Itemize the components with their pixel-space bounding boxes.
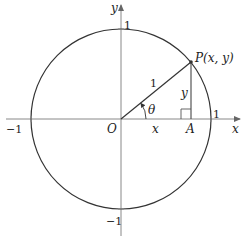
x-axis-label: x — [232, 122, 239, 136]
adjacent-label: x — [152, 122, 159, 136]
point-p-dot — [189, 60, 193, 64]
angle-label: θ — [148, 103, 156, 117]
radius-label: 1 — [150, 77, 157, 90]
top-tick-label: 1 — [124, 19, 131, 32]
bottom-tick-label: −1 — [106, 215, 122, 228]
opposite-label: y — [180, 86, 188, 100]
right-tick-label: 1 — [213, 108, 220, 121]
origin-label: O — [107, 122, 117, 136]
left-tick-label: −1 — [6, 123, 22, 136]
angle-arc — [141, 104, 146, 120]
y-axis-label: y — [110, 1, 118, 15]
foot-a-label: A — [185, 122, 195, 136]
right-angle-marker — [181, 109, 191, 119]
point-p-label: P(x, y) — [194, 51, 234, 65]
unit-circle-diagram: y 1 x 1 −1 −1 O P(x, y) A 1 θ x y — [0, 0, 248, 243]
